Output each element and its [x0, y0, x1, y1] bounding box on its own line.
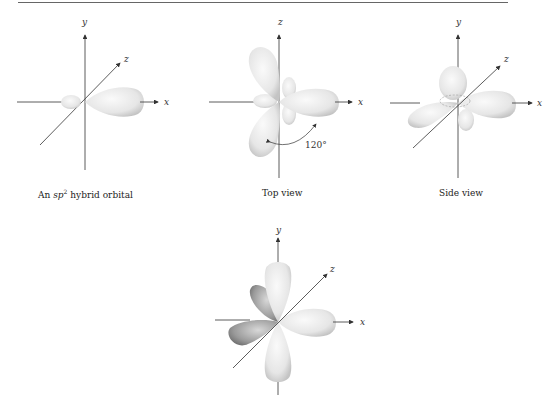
axis-label-z: z	[329, 264, 335, 274]
panel-sp2-orbital: y z x	[17, 17, 169, 170]
orbital-diagrams: y z x 120° z x y z x	[0, 0, 559, 409]
caption-side-view: Side view	[439, 188, 483, 198]
caption-top-view: Top view	[262, 188, 302, 198]
axis-label-y: y	[275, 225, 282, 235]
axis-label-y: y	[455, 17, 462, 27]
axis-label-x: x	[537, 98, 542, 108]
axis-label-z: z	[503, 54, 509, 64]
axis-label-x: x	[358, 97, 363, 107]
caption-suffix: hybrid orbital	[67, 190, 133, 200]
caption-sp2-orbital: An sp2 hybrid orbital	[38, 188, 133, 200]
angle-label: 120°	[305, 140, 327, 150]
caption-italic: sp	[53, 190, 63, 200]
axis-label-y: y	[81, 17, 88, 27]
axis-label-z: z	[123, 54, 129, 64]
axis-label-x: x	[360, 317, 365, 327]
axis-label-z: z	[277, 17, 283, 27]
caption-prefix: An	[38, 190, 53, 200]
panel-combined: y z x	[215, 225, 365, 395]
panel-top-view: 120° z x	[209, 17, 363, 178]
panel-side-view: y z x	[390, 17, 542, 178]
axis-label-x: x	[164, 97, 169, 107]
